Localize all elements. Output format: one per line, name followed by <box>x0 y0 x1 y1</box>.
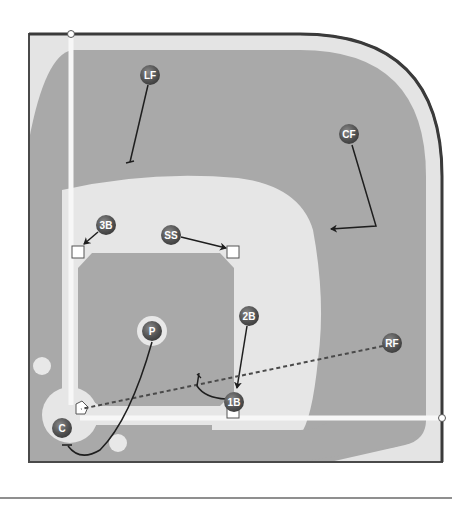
player-label: LF <box>144 70 156 81</box>
on-deck-circle-left <box>33 357 51 375</box>
player-label: P <box>149 326 156 337</box>
player-2b: 2B <box>239 306 259 326</box>
player-lf: LF <box>140 65 160 85</box>
player-ss: SS <box>161 225 181 245</box>
player-c: C <box>52 418 72 438</box>
player-3b: 3B <box>96 215 116 235</box>
player-cf: CF <box>339 124 359 144</box>
player-label: 2B <box>243 311 256 322</box>
baseball-field-diagram: LF CF 3B SS P 2B RF 1B C <box>0 0 454 506</box>
player-label: SS <box>164 230 178 241</box>
second-base <box>227 246 239 258</box>
player-label: 3B <box>100 220 113 231</box>
left-foul-pole <box>68 31 75 38</box>
player-p: P <box>142 321 162 341</box>
player-rf: RF <box>382 333 402 353</box>
third-base <box>72 246 84 258</box>
player-label: RF <box>385 338 398 349</box>
player-label: 1B <box>228 397 241 408</box>
player-1b: 1B <box>224 392 244 412</box>
player-label: CF <box>342 129 355 140</box>
player-label: C <box>58 423 65 434</box>
right-foul-pole <box>439 415 446 422</box>
